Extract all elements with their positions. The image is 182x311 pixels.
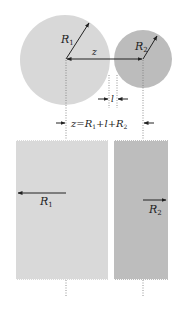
distance-formula: z=R1+l+R2 — [56, 118, 154, 130]
sphere-slab-diagram: R1 R2 z l z=R1+l+R2 — [0, 0, 182, 311]
gap-indicator: l — [98, 94, 128, 104]
slab-1 — [16, 140, 108, 280]
label-gap-l: l — [111, 94, 114, 104]
slab-group: R1 R2 — [16, 140, 168, 280]
label-z-center: z — [91, 47, 97, 57]
formula-text: z=R1+l+R2 — [70, 118, 128, 130]
sphere-1 — [20, 15, 110, 105]
sphere-group: R1 R2 z — [20, 15, 172, 105]
